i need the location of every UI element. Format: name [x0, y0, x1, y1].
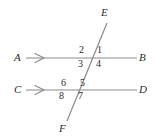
- angle-label-4: 4: [96, 59, 101, 69]
- angle-label-2: 2: [79, 45, 84, 55]
- point-label-d: D: [139, 84, 147, 95]
- diagram-canvas: [0, 0, 154, 139]
- point-label-c: C: [14, 84, 21, 95]
- point-label-b: B: [139, 52, 146, 63]
- angle-label-3: 3: [78, 59, 83, 69]
- angle-label-7: 7: [78, 91, 83, 101]
- line-ef-transversal: [67, 23, 107, 121]
- angle-label-6: 6: [61, 78, 66, 88]
- angle-label-5: 5: [80, 78, 85, 88]
- point-label-a: A: [14, 52, 21, 63]
- angle-label-1: 1: [97, 45, 102, 55]
- point-label-e: E: [101, 7, 108, 18]
- angle-label-8: 8: [59, 91, 64, 101]
- point-label-f: F: [59, 123, 66, 134]
- geometry-diagram: A B C D E F 1 2 3 4 5 6 7 8: [0, 0, 154, 139]
